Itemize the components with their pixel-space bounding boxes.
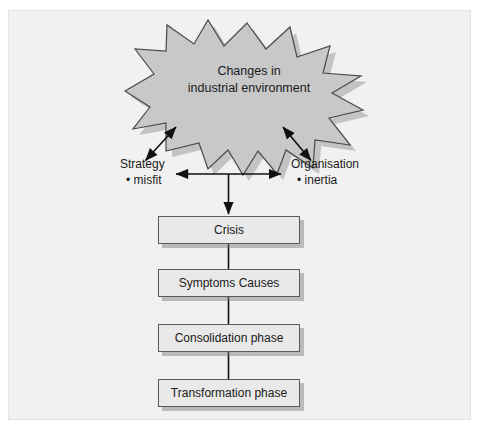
box-transformation: Transformation phase [158, 379, 300, 407]
label-strategy: Strategy • misfit [120, 156, 165, 188]
label-strategy-bullet: • misfit [120, 172, 165, 188]
box-crisis: Crisis [158, 216, 300, 244]
label-organisation-heading: Organisation [291, 156, 359, 172]
diagram-root: Changes in industrial environment Strate… [0, 0, 479, 435]
label-organisation: Organisation • inertia [291, 156, 359, 188]
label-strategy-heading: Strategy [120, 156, 165, 172]
starburst-icon [125, 20, 363, 175]
box-symptoms: Symptoms Causes [158, 269, 300, 297]
box-consolidation: Consolidation phase [158, 324, 300, 352]
label-organisation-bullet: • inertia [291, 172, 359, 188]
